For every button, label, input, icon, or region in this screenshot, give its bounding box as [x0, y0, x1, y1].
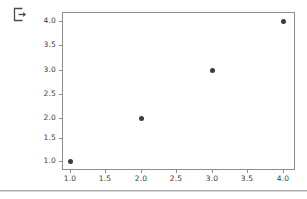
y-tick [59, 94, 62, 95]
y-tick [59, 45, 62, 46]
y-tick-label: 3.5 [43, 41, 56, 49]
x-tick [247, 170, 248, 173]
x-tick [283, 170, 284, 173]
x-tick [105, 170, 106, 173]
x-tick-label: 1.5 [99, 175, 112, 183]
bottom-divider-shadow [0, 191, 307, 192]
y-tick-label: 3.0 [43, 66, 56, 74]
y-tick-label: 2.0 [43, 114, 56, 122]
x-tick-label: 4.0 [277, 175, 290, 183]
y-tick [59, 118, 62, 119]
x-tick-label: 1.0 [64, 175, 77, 183]
x-tick-label: 3.5 [241, 175, 254, 183]
x-tick-label: 2.0 [135, 175, 148, 183]
scatter-plot-figure: 1.0 1.5 2.0 2.5 3.0 3.5 4.0 1.0 1.5 2.0 … [0, 0, 307, 188]
y-tick-label: 4.0 [43, 17, 56, 25]
y-tick-label: 1.0 [43, 157, 56, 165]
x-tick [212, 170, 213, 173]
x-tick [176, 170, 177, 173]
y-tick [59, 21, 62, 22]
y-tick [59, 161, 62, 162]
x-tick-label: 3.0 [206, 175, 219, 183]
axes-frame [62, 12, 295, 170]
y-tick [59, 70, 62, 71]
x-tick-label: 2.5 [170, 175, 183, 183]
y-tick-label: 2.5 [43, 90, 56, 98]
y-tick [59, 138, 62, 139]
x-tick [70, 170, 71, 173]
x-tick [141, 170, 142, 173]
screenshot-root: 1.0 1.5 2.0 2.5 3.0 3.5 4.0 1.0 1.5 2.0 … [0, 0, 307, 199]
y-tick-label: 1.5 [43, 134, 56, 142]
